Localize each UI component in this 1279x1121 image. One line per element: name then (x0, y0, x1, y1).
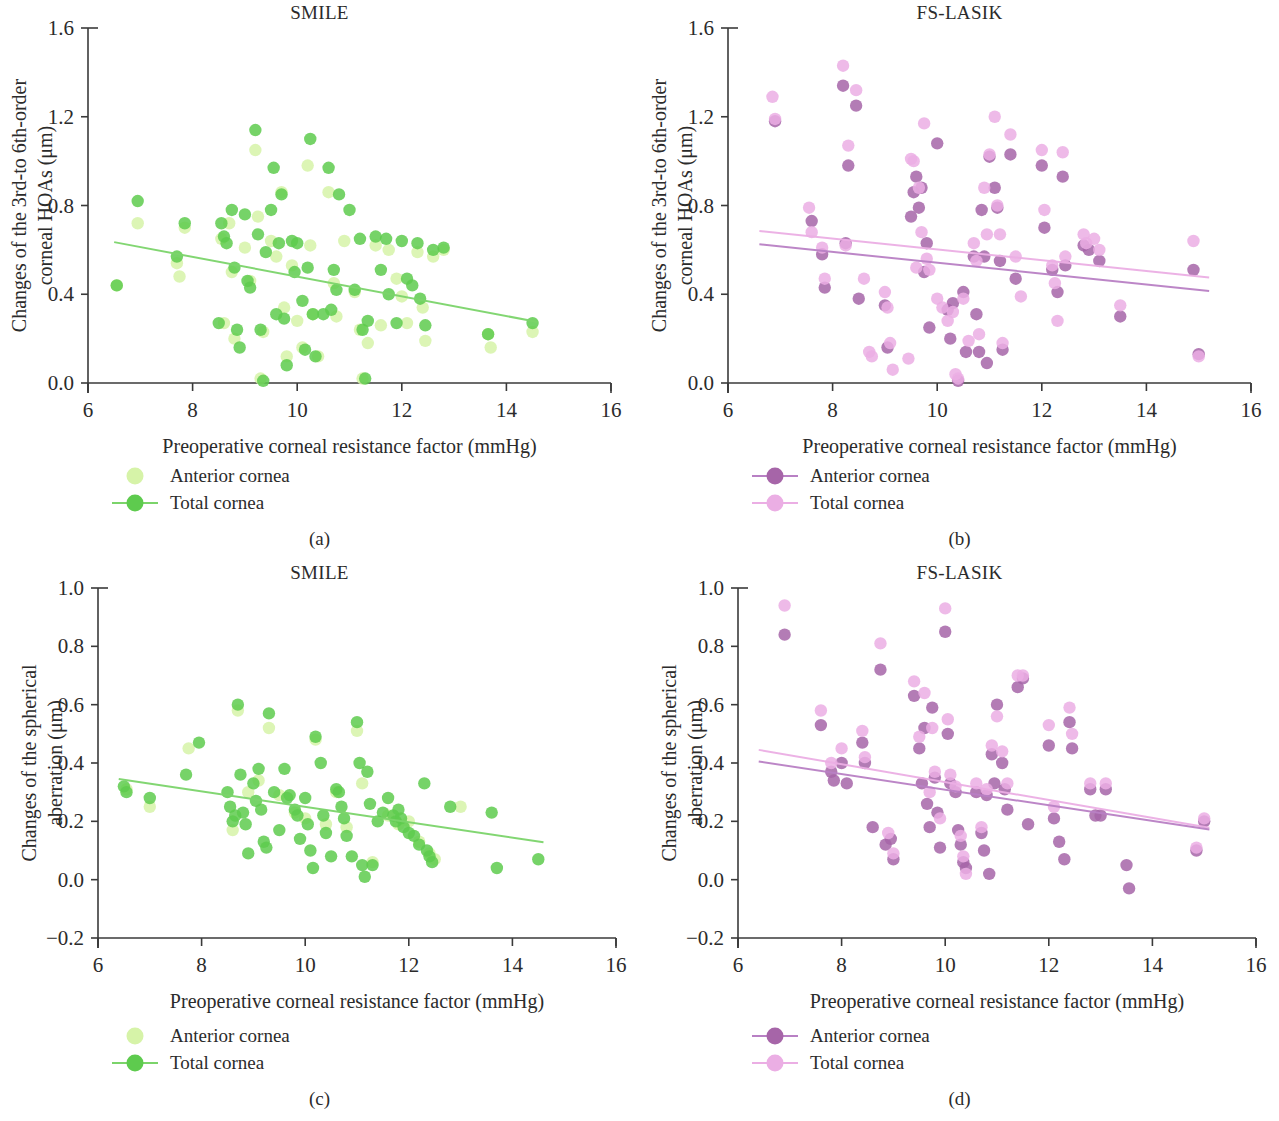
data-point (1084, 777, 1096, 789)
data-point (994, 228, 1006, 240)
data-point (962, 335, 974, 347)
data-point (879, 286, 891, 298)
data-point (247, 777, 259, 789)
data-point (239, 241, 251, 253)
y-tick-label: 0.8 (698, 634, 724, 658)
data-point (383, 244, 395, 256)
x-tick-label: 8 (187, 398, 198, 422)
x-tick-label: 14 (496, 398, 518, 422)
data-point (1022, 818, 1034, 830)
plot-area-d: −0.20.00.20.40.60.81.06810121416Preopera… (640, 560, 1279, 1030)
data-point (1036, 159, 1048, 171)
data-point (926, 722, 938, 734)
x-tick-label: 12 (1038, 953, 1059, 977)
figure-panels: SMILE0.00.40.81.21.66810121416Preoperati… (0, 0, 1279, 1121)
data-point (260, 841, 272, 853)
data-point (1094, 809, 1106, 821)
data-point (828, 774, 840, 786)
data-point (970, 255, 982, 267)
data-point (291, 315, 303, 327)
data-point (918, 687, 930, 699)
data-point (437, 241, 449, 253)
data-point (301, 261, 313, 273)
data-point (182, 742, 194, 754)
data-point (981, 357, 993, 369)
data-point (239, 818, 251, 830)
data-point (835, 742, 847, 754)
x-tick-label: 10 (927, 398, 948, 422)
x-tick-label: 6 (723, 398, 734, 422)
panel-caption-b: (b) (640, 528, 1279, 550)
data-point (260, 246, 272, 258)
data-point (1198, 812, 1210, 824)
data-point (1015, 290, 1027, 302)
data-point (1053, 836, 1065, 848)
data-point (252, 228, 264, 240)
data-point (1057, 146, 1069, 158)
x-tick-label: 6 (83, 398, 94, 422)
panel-caption-c: (c) (0, 1088, 639, 1110)
y-axis-title-line1: Changes of the spherical (658, 664, 681, 862)
data-point (769, 113, 781, 125)
data-point (819, 273, 831, 285)
data-point (881, 301, 893, 313)
x-tick-label: 10 (287, 398, 308, 422)
data-point (226, 204, 238, 216)
data-point (887, 363, 899, 375)
data-point (874, 637, 886, 649)
data-point (1048, 812, 1060, 824)
data-point (910, 261, 922, 273)
data-point (234, 768, 246, 780)
data-point (304, 239, 316, 251)
data-point (923, 321, 935, 333)
data-point (1063, 716, 1075, 728)
data-point (907, 155, 919, 167)
data-point (913, 202, 925, 214)
trend-line (759, 750, 1210, 828)
data-point (304, 844, 316, 856)
data-point (267, 162, 279, 174)
x-tick-label: 16 (1246, 953, 1267, 977)
data-point (996, 757, 1008, 769)
legend-dot-icon (127, 1054, 144, 1071)
data-point (866, 350, 878, 362)
data-point (1043, 719, 1055, 731)
data-point (1187, 264, 1199, 276)
y-tick-label: −0.2 (686, 926, 724, 950)
data-point (996, 337, 1008, 349)
data-point (362, 337, 374, 349)
data-point (986, 739, 998, 751)
data-point (1049, 277, 1061, 289)
data-point (1066, 728, 1078, 740)
data-point (1058, 853, 1070, 865)
data-point (973, 346, 985, 358)
data-point (1036, 144, 1048, 156)
data-point (242, 847, 254, 859)
y-tick-label: 1.0 (58, 576, 84, 600)
data-point (309, 731, 321, 743)
data-point (842, 139, 854, 151)
data-point (874, 663, 886, 675)
data-point (1004, 148, 1016, 160)
y-tick-label: 0.0 (48, 371, 74, 395)
x-tick-label: 8 (836, 953, 847, 977)
data-point (968, 237, 980, 249)
data-point (921, 798, 933, 810)
y-axis-title-line2: aberration (μm) (44, 700, 67, 826)
data-point (942, 728, 954, 740)
data-point (989, 111, 1001, 123)
data-point (179, 217, 191, 229)
x-axis-title: Preoperative corneal resistance factor (… (802, 435, 1176, 458)
data-point (273, 237, 285, 249)
data-point (485, 341, 497, 353)
data-point (837, 79, 849, 91)
legend-label: Total cornea (810, 1052, 904, 1074)
data-point (853, 292, 865, 304)
data-point (427, 244, 439, 256)
data-point (931, 137, 943, 149)
data-point (390, 317, 402, 329)
data-point (942, 713, 954, 725)
x-tick-label: 16 (1241, 398, 1262, 422)
data-point (263, 707, 275, 719)
data-point (180, 768, 192, 780)
